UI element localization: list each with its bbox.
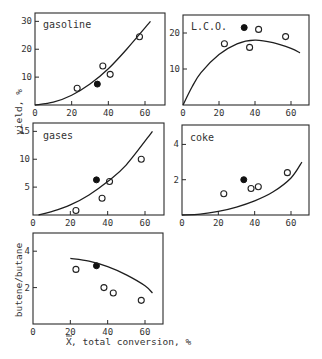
- y-tick-label: 10: [169, 64, 180, 74]
- open-data-point: [248, 186, 254, 192]
- model-curve: [182, 162, 302, 215]
- x-tick-label: 60: [286, 218, 297, 228]
- filled-data-point: [241, 177, 247, 183]
- panel-gases: 020406051015gases: [19, 123, 164, 228]
- x-tick-label: 0: [32, 108, 37, 118]
- open-data-point: [138, 156, 144, 162]
- filled-data-point: [241, 25, 247, 31]
- x-tick-label: 20: [65, 218, 76, 228]
- model-curve: [39, 131, 153, 215]
- open-data-point: [221, 191, 227, 197]
- y-tick-label: 20: [169, 28, 180, 38]
- open-data-point: [99, 195, 105, 201]
- x-tick-label: 0: [180, 108, 185, 118]
- y-tick-label: 20: [21, 44, 32, 54]
- y-tick-label: 30: [21, 16, 32, 26]
- y-axis-label-yield: yield, %: [13, 89, 24, 135]
- open-data-point: [73, 208, 79, 214]
- filled-data-point: [94, 81, 100, 87]
- y-tick-label: 10: [21, 72, 32, 82]
- y-tick-label: 4: [25, 246, 30, 256]
- x-tick-label: 40: [249, 218, 260, 228]
- open-data-point: [110, 290, 116, 296]
- x-tick-label: 20: [214, 108, 225, 118]
- plot-frame: [33, 233, 163, 324]
- y-tick-label: 5: [25, 182, 30, 192]
- open-data-point: [101, 285, 107, 291]
- x-tick-label: 0: [30, 327, 35, 337]
- open-data-point: [221, 41, 227, 47]
- panel-title: gases: [43, 130, 73, 141]
- open-data-point: [283, 34, 289, 40]
- open-data-point: [256, 26, 262, 32]
- model-curve: [183, 40, 300, 105]
- panel-gasoline: 0204060102030gasoline: [21, 13, 165, 118]
- open-data-point: [247, 44, 253, 50]
- open-data-point: [107, 71, 113, 77]
- filled-data-point: [93, 177, 99, 183]
- open-data-point: [100, 63, 106, 69]
- x-axis-label-text: , total conversion, %: [71, 336, 191, 347]
- y-axis-label-butene-butane: butene/butane: [13, 243, 24, 318]
- x-tick-label: 40: [250, 108, 261, 118]
- panel-title: coke: [190, 132, 214, 143]
- y-tick-label: 4: [174, 139, 179, 149]
- x-tick-label: 40: [103, 108, 114, 118]
- open-data-point: [138, 297, 144, 303]
- panel-title: L.C.O.: [191, 21, 227, 32]
- x-tick-label: 60: [140, 108, 151, 118]
- open-data-point: [284, 170, 290, 176]
- y-tick-label: 10: [19, 154, 30, 164]
- open-data-point: [255, 184, 261, 190]
- x-tick-label: 60: [286, 108, 297, 118]
- x-axis-label: X , total conversion, %: [66, 336, 191, 347]
- y-tick-label: 2: [25, 283, 30, 293]
- x-tick-label: 40: [102, 218, 113, 228]
- x-tick-label: 20: [213, 218, 224, 228]
- x-tick-label: 20: [66, 108, 77, 118]
- x-tick-label: 60: [140, 218, 151, 228]
- x-tick-label: 0: [179, 218, 184, 228]
- panel-title: gasoline: [43, 19, 91, 30]
- open-data-point: [73, 266, 79, 272]
- model-curve: [35, 21, 151, 105]
- panel-butene-butane: 020406024: [25, 233, 163, 337]
- model-curve: [70, 258, 152, 293]
- panel-lco: 02040601020L.C.O.: [169, 15, 309, 118]
- y-tick-label: 2: [174, 175, 179, 185]
- x-tick-label: 0: [30, 218, 35, 228]
- figure-canvas: 0204060102030gasoline02040601020L.C.O.02…: [0, 0, 322, 359]
- panel-coke: 020406024coke: [174, 125, 309, 228]
